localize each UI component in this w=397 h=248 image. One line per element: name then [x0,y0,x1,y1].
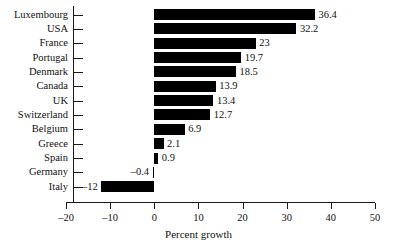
bar [154,138,163,149]
category-label: USA [0,24,68,35]
y-axis-tick [74,115,83,116]
bar-value-label: –0.4 [0,167,149,178]
bar-value-label: 13.9 [219,81,237,92]
category-label: Portugal [0,53,68,64]
bar [153,167,155,178]
bar-value-label: 12.7 [214,110,232,121]
bar-value-label: 23 [259,38,270,49]
category-label: Greece [0,139,68,150]
x-axis-tick-label: 40 [311,213,351,224]
bar [154,66,236,77]
bar-value-label: 19.7 [245,53,263,64]
bar [154,95,213,106]
y-axis-tick [74,58,83,59]
x-axis-tick-label: –10 [90,213,130,224]
y-axis-tick [74,144,83,145]
y-axis-tick [74,129,83,130]
y-axis-tick [74,72,83,73]
bar-value-label: 0.9 [162,153,175,164]
x-axis-tick-label: 10 [178,213,218,224]
bar [154,9,315,20]
x-axis-tick [154,203,155,209]
bar-value-label: –12 [0,182,98,193]
bar [101,181,154,192]
category-label: Canada [0,81,68,92]
category-label: Switzerland [0,110,68,121]
bar [154,109,210,120]
bar-value-label: 18.5 [239,67,257,78]
category-label: France [0,38,68,49]
x-axis-tick [198,203,199,209]
category-label: UK [0,96,68,107]
x-axis-tick-label: 50 [355,213,395,224]
y-axis-tick [74,15,83,16]
y-axis-tick [74,158,83,159]
bar-value-label: 6.9 [188,124,201,135]
y-axis-tick [74,86,83,87]
bar-value-label: 13.4 [217,96,235,107]
category-label: Denmark [0,67,68,78]
bar-value-label: 2.1 [167,139,180,150]
x-axis-tick [331,203,332,209]
x-axis-tick-label: 0 [134,213,174,224]
bar [154,38,256,49]
category-label: Luxembourg [0,10,68,21]
bar [154,81,215,92]
x-axis-tick [375,203,376,209]
bar [154,124,184,135]
x-axis-tick [110,203,111,209]
bar [154,23,296,34]
x-axis-line [66,202,375,203]
x-axis-tick-label: –20 [46,213,86,224]
x-axis-tick-label: 30 [267,213,307,224]
category-label: Belgium [0,124,68,135]
x-axis-title: Percent growth [0,228,397,240]
x-axis-tick [243,203,244,209]
x-axis-tick [66,203,67,209]
bar [154,52,241,63]
x-axis-tick [287,203,288,209]
bar [154,153,158,164]
bar-value-label: 36.4 [318,10,336,21]
y-axis-tick [74,43,83,44]
bar-chart: Luxembourg36.4USA32.2France23Portugal19.… [0,0,397,248]
y-axis-tick [74,29,83,30]
y-axis-tick [74,101,83,102]
bar-value-label: 32.2 [300,24,318,35]
category-label: Spain [0,153,68,164]
x-axis-tick-label: 20 [223,213,263,224]
